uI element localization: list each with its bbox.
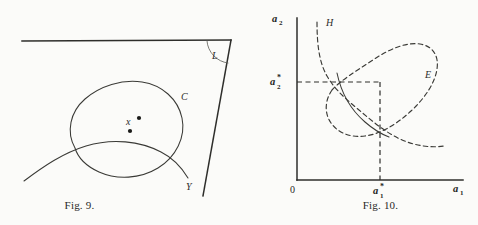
y-axis-label: a 2	[272, 13, 283, 27]
x-axis-label: a 1	[453, 183, 464, 197]
y-axis-label-base: a	[272, 13, 277, 24]
curve-e	[326, 44, 437, 137]
x-star-sup: *	[380, 182, 384, 191]
figure-9-canvas: L C Y x	[0, 0, 239, 210]
curve-e-label: E	[424, 69, 431, 80]
y-star-sub: 2	[277, 83, 281, 91]
figure-page: L C Y x Fig. 9. a 2	[0, 0, 478, 225]
angle-upper-ray	[22, 40, 231, 41]
x-axis-label-base: a	[453, 183, 458, 194]
curve-c-label: C	[181, 91, 188, 102]
figure-10-canvas: a 2 a 1 0 a 2 * a 1 *	[239, 0, 478, 210]
y-star-base: a	[270, 76, 275, 87]
origin-label: 0	[290, 184, 295, 195]
point-x-label: x	[125, 116, 131, 127]
angle-label-l: L	[211, 50, 218, 61]
figure-9-caption: Fig. 9.	[0, 199, 199, 211]
curve-h-label: H	[325, 17, 334, 28]
y-star-tick-label: a 2 *	[270, 73, 281, 91]
curve-y-label: Y	[186, 181, 193, 192]
x-star-tick-label: a 1 *	[373, 182, 384, 200]
closed-curve-c	[70, 81, 183, 177]
figure-10-caption: Fig. 10.	[261, 199, 478, 211]
y-axis-label-sub: 2	[279, 19, 283, 27]
marked-point-lower	[128, 129, 132, 133]
figure-10: a 2 a 1 0 a 2 * a 1 *	[239, 0, 478, 225]
marked-point-upper	[137, 116, 141, 120]
y-star-sup: *	[277, 73, 281, 82]
angle-lower-ray	[203, 40, 231, 196]
x-axis-label-sub: 1	[460, 189, 464, 197]
x-star-base: a	[373, 185, 378, 196]
figure-9: L C Y x Fig. 9.	[0, 0, 239, 225]
